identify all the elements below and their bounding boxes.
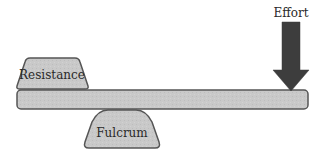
effort-arrow-icon [273,22,309,91]
resistance-label: Resistance [19,68,85,82]
lever-diagram: Resistance Fulcrum Effort [0,0,325,156]
fulcrum: Fulcrum [85,110,160,148]
lever-beam [17,90,308,109]
fulcrum-label: Fulcrum [96,126,148,140]
resistance-load: Resistance [17,58,88,89]
effort-label: Effort [273,6,308,20]
